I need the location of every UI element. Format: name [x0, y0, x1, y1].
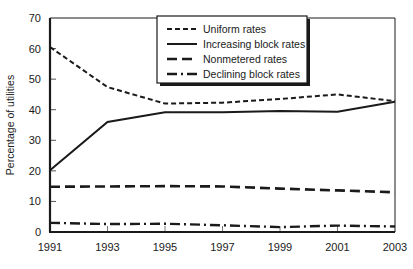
series-line-increasing-block-rates — [50, 102, 395, 170]
y-tick-label: 60 — [29, 43, 41, 55]
legend-label-0: Uniform rates — [203, 23, 266, 35]
x-tick-label: 2003 — [383, 241, 407, 253]
chart-container: Percentage of utilities 010203040506070 … — [0, 0, 413, 269]
y-tick-label: 70 — [29, 12, 41, 24]
legend-label-1: Increasing block rates — [203, 38, 305, 50]
x-tick-label: 2001 — [325, 241, 349, 253]
y-tick-label: 20 — [29, 165, 41, 177]
chart-legend: Uniform ratesIncreasing block ratesNonme… — [157, 16, 310, 86]
series-line-nonmetered-rates — [50, 186, 395, 192]
legend-label-2: Nonmetered rates — [203, 53, 287, 65]
y-tick-label: 50 — [29, 73, 41, 85]
x-tick-label: 1995 — [153, 241, 177, 253]
y-tick-label: 40 — [29, 104, 41, 116]
y-tick-label: 10 — [29, 195, 41, 207]
legend-label-3: Declining block rates — [203, 68, 300, 80]
x-axis-tick-labels: 1991199319951997199920012003 — [38, 241, 407, 253]
y-axis-tick-labels: 010203040506070 — [29, 12, 41, 238]
x-tick-label: 1993 — [95, 241, 119, 253]
x-tick-label: 1991 — [38, 241, 62, 253]
y-tick-label: 30 — [29, 134, 41, 146]
x-tick-label: 1997 — [210, 241, 234, 253]
y-tick-label: 0 — [35, 226, 41, 238]
line-chart: Percentage of utilities 010203040506070 … — [0, 0, 413, 269]
y-axis-title: Percentage of utilities — [4, 75, 16, 175]
x-tick-label: 1999 — [268, 241, 292, 253]
